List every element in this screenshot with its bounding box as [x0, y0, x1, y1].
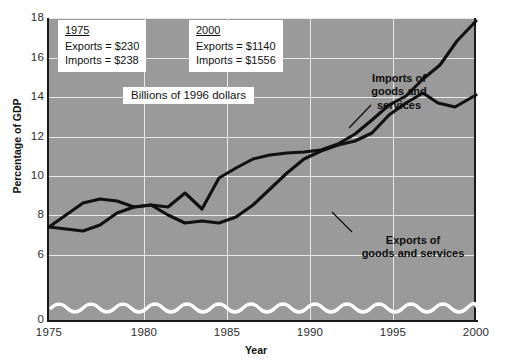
x-axis-line [47, 320, 478, 322]
y-axis-title: Percentage of GDP [11, 81, 23, 211]
x-axis-title: Year [206, 344, 306, 356]
callout-1975-line-2: Imports = $238 [65, 54, 139, 66]
series-label-imports: Imports of goods and services [353, 72, 445, 112]
chart-root: 18 16 14 12 10 8 6 0 1975 1980 1985 1990… [0, 0, 512, 362]
series-label-imports-line-3: services [377, 99, 421, 111]
callout-2000-line-1: Exports = $1140 [196, 40, 276, 52]
series-label-exports-line-2: goods and services [362, 247, 465, 259]
y-tick-6: 6 [14, 248, 44, 260]
series-label-exports: Exports of goods and services [349, 234, 477, 261]
x-tick-1995: 1995 [363, 326, 423, 338]
callout-1975-line-1: Exports = $230 [65, 40, 139, 52]
series-label-imports-line-2: goods and [371, 85, 427, 97]
y-tick-0: 0 [14, 313, 44, 325]
units-caption: Billions of 1996 dollars [123, 87, 254, 104]
callout-2000-line-2: Imports = $1556 [196, 54, 276, 66]
callout-1975: 1975 Exports = $230 Imports = $238 [58, 20, 146, 72]
gridline-y-18 [49, 18, 474, 19]
callout-2000-header: 2000 [196, 23, 276, 38]
y-tick-18: 18 [14, 11, 44, 23]
x-tick-2000: 2000 [446, 326, 506, 338]
callout-2000: 2000 Exports = $1140 Imports = $1556 [189, 20, 283, 72]
gridline-y-12 [49, 137, 474, 138]
x-tick-1985: 1985 [197, 326, 257, 338]
y-axis-line [47, 18, 49, 322]
gridline-y-10 [49, 176, 474, 177]
x-tick-1980: 1980 [114, 326, 174, 338]
x-tick-1975: 1975 [19, 326, 79, 338]
gridline-y-8 [49, 215, 474, 216]
gridline-x-1995 [393, 18, 394, 320]
gridline-x-1990 [310, 18, 311, 320]
y-tick-16: 16 [14, 51, 44, 63]
x-tick-1990: 1990 [280, 326, 340, 338]
callout-1975-header: 1975 [65, 23, 139, 38]
series-label-imports-line-1: Imports of [372, 72, 426, 84]
series-label-exports-line-1: Exports of [386, 234, 440, 246]
